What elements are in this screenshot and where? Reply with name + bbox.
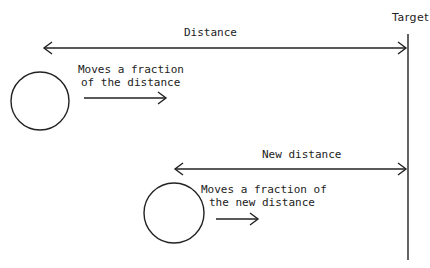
ball-2 — [144, 183, 204, 243]
step1-move-arrow — [84, 92, 166, 104]
diagram-canvas: Target Distance Moves a fraction of the … — [0, 0, 430, 268]
step2-caption-line1: Moves a fraction of — [201, 183, 327, 196]
step2-caption-line2: the new distance — [209, 196, 315, 209]
distance-label: Distance — [184, 26, 237, 39]
target-label: Target — [391, 11, 429, 24]
step2-move-arrow — [216, 213, 258, 225]
distance-double-arrow — [44, 42, 406, 54]
ball-1 — [11, 72, 69, 130]
step1-caption-line1: Moves a fraction — [78, 63, 184, 76]
new-distance-label: New distance — [262, 148, 341, 161]
step1-caption-line2: of the distance — [81, 76, 180, 89]
new-distance-double-arrow — [175, 163, 406, 175]
